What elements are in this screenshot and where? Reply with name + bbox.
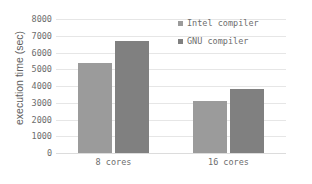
bar (115, 41, 149, 153)
legend-label: Intel compiler (187, 19, 259, 28)
bar (193, 101, 227, 153)
legend-entry: GNU compiler (178, 35, 259, 48)
legend-swatch-icon (178, 21, 183, 26)
legend-swatch-icon (178, 39, 183, 44)
bar (230, 89, 264, 153)
bar (78, 63, 112, 153)
y-axis-tick-label: 0 (0, 149, 52, 158)
y-axis-tick-label: 3000 (0, 99, 52, 108)
y-axis-tick-label: 5000 (0, 65, 52, 74)
y-axis-tick-label: 8000 (0, 15, 52, 24)
legend: Intel compilerGNU compiler (178, 17, 259, 53)
y-axis-title: execution time (sec) (13, 3, 25, 153)
y-axis-tick-label: 6000 (0, 49, 52, 58)
y-axis-tick-label: 2000 (0, 116, 52, 125)
legend-label: GNU compiler (187, 37, 248, 46)
y-axis-tick-label: 7000 (0, 32, 52, 41)
y-axis-tick-label: 4000 (0, 82, 52, 91)
legend-entry: Intel compiler (178, 17, 259, 30)
gridline (56, 153, 286, 154)
x-axis-category-label: 16 cores (193, 158, 264, 167)
bar-chart: execution time (sec) 0100020003000400050… (0, 0, 312, 184)
y-axis-tick-label: 1000 (0, 132, 52, 141)
x-axis-category-label: 8 cores (78, 158, 149, 167)
